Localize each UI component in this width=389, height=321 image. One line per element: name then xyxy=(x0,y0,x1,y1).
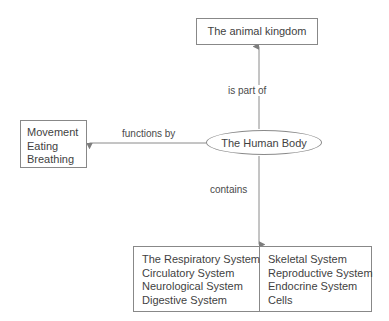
node-human-body-label: The Human Body xyxy=(221,137,307,149)
node-animal-kingdom-label: The animal kingdom xyxy=(207,25,306,39)
systems-column-left: The Respiratory System Circulatory Syste… xyxy=(134,247,260,311)
system-item-digestive: Digestive System xyxy=(142,294,259,308)
node-functions-line-eating: Eating xyxy=(27,140,86,154)
edge-label-contains: contains xyxy=(208,184,249,195)
system-item-endocrine: Endocrine System xyxy=(268,280,372,294)
systems-column-right: Skeletal System Reproductive System Endo… xyxy=(260,247,372,311)
node-human-body: The Human Body xyxy=(206,130,322,155)
node-animal-kingdom: The animal kingdom xyxy=(196,18,318,45)
node-systems: The Respiratory System Circulatory Syste… xyxy=(133,246,372,312)
node-functions: Movement Eating Breathing xyxy=(20,120,87,168)
edge-label-is-part-of: is part of xyxy=(226,85,268,96)
edge-label-functions-by: functions by xyxy=(120,128,177,139)
system-item-neurological: Neurological System xyxy=(142,280,259,294)
system-item-cells: Cells xyxy=(268,294,372,308)
system-item-skeletal: Skeletal System xyxy=(268,253,372,267)
system-item-reproductive: Reproductive System xyxy=(268,267,372,281)
node-functions-line-movement: Movement xyxy=(27,126,86,140)
node-functions-line-breathing: Breathing xyxy=(27,153,86,167)
system-item-circulatory: Circulatory System xyxy=(142,267,259,281)
system-item-respiratory: The Respiratory System xyxy=(142,253,259,267)
